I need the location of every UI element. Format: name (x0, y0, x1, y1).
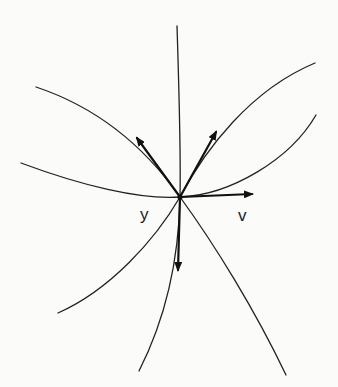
vector-label-v: v (238, 207, 247, 224)
tangent-vector-upper-left-icon (137, 138, 180, 197)
curve-lower-left-upper-right (58, 63, 315, 313)
diagram-canvas: y v (0, 0, 338, 387)
tangent-vector-upper-right-icon (180, 132, 216, 197)
curve-vertical (139, 26, 180, 371)
point-y-dot (177, 194, 182, 199)
point-label-y: y (140, 206, 149, 223)
curve-left-upper-right (21, 115, 316, 197)
vector-v-icon (180, 194, 252, 197)
curves-diagram (0, 0, 338, 387)
curve-upper-left-lower-right (36, 87, 286, 375)
tangent-vector-down-icon (178, 197, 180, 270)
